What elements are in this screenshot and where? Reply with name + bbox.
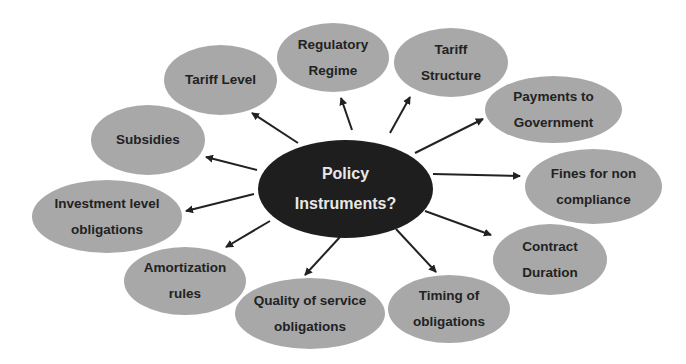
arrow-regulatory-regime bbox=[341, 98, 352, 130]
node-subsidies: Subsidies bbox=[91, 105, 205, 175]
arrow-fines bbox=[433, 174, 520, 176]
arrow-investment bbox=[186, 194, 254, 211]
arrow-timing bbox=[396, 229, 436, 272]
arrow-tariff-level bbox=[252, 113, 298, 143]
arrow-quality bbox=[305, 237, 340, 275]
arrow-tariff-structure bbox=[390, 97, 410, 133]
node-fines-for-non-compliance: Fines for non compliance bbox=[525, 149, 662, 224]
arrow-subsidies bbox=[206, 157, 257, 170]
node-timing-of-obligations: Timing of obligations bbox=[388, 275, 510, 343]
arrow-contract bbox=[425, 211, 491, 235]
node-payments-to-government: Payments to Government bbox=[485, 76, 622, 143]
node-tariff-level: Tariff Level bbox=[164, 45, 277, 115]
node-tariff-structure: Tariff Structure bbox=[394, 28, 508, 97]
arrow-amortization bbox=[226, 221, 270, 247]
node-amortization-rules: Amortization rules bbox=[124, 247, 246, 315]
central-node-policy-instruments: Policy Instruments? bbox=[258, 140, 433, 238]
node-quality-of-service-obligations: Quality of service obligations bbox=[235, 278, 385, 349]
arrow-payments bbox=[415, 119, 483, 153]
node-investment-level-obligations: Investment level obligations bbox=[32, 180, 182, 253]
node-regulatory-regime: Regulatory Regime bbox=[277, 23, 389, 92]
node-contract-duration: Contract Duration bbox=[493, 224, 607, 295]
